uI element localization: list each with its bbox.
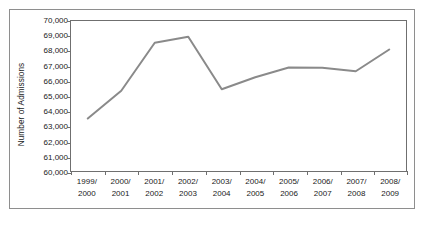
y-axis-tick-labels: 60,00061,00062,00063,00064,00065,00066,0… (30, 20, 68, 172)
x-axis-tick-label: 2005/2006 (279, 176, 299, 199)
y-axis-tick-label: 63,000 (30, 122, 68, 131)
x-axis-tick-mark (206, 171, 207, 175)
y-axis-tick-label: 68,000 (30, 46, 68, 55)
y-axis-tick-label: 60,000 (30, 168, 68, 177)
x-tick-line-2: 2000 (77, 188, 97, 200)
x-axis-tick-mark (105, 171, 106, 175)
line-series-svg (71, 21, 406, 171)
x-tick-line-2: 2006 (279, 188, 299, 200)
x-axis-tick-label: 2002/2003 (178, 176, 198, 199)
x-axis-tick-mark (138, 171, 139, 175)
x-axis-tick-mark (240, 171, 241, 175)
x-tick-line-2: 2008 (346, 188, 366, 200)
x-tick-line-1: 2001/ (144, 177, 164, 186)
y-axis-tick-label: 64,000 (30, 107, 68, 116)
x-axis-tick-label: 2007/2008 (346, 176, 366, 199)
y-axis-tick-mark (67, 158, 71, 159)
x-axis-tick-mark (71, 171, 72, 175)
y-axis-tick-label: 69,000 (30, 31, 68, 40)
x-tick-line-1: 2007/ (346, 177, 366, 186)
x-tick-line-2: 2003 (178, 188, 198, 200)
x-axis-tick-label: 2004/2005 (245, 176, 265, 199)
y-axis-tick-mark (67, 127, 71, 128)
y-axis-tick-mark (67, 97, 71, 98)
y-axis-tick-label: 67,000 (30, 61, 68, 70)
x-tick-line-2: 2007 (313, 188, 333, 200)
x-tick-line-2: 2005 (245, 188, 265, 200)
x-tick-line-1: 2004/ (245, 177, 265, 186)
chart-figure: Number of Admissions 60,00061,00062,0006… (0, 0, 426, 229)
y-axis-tick-label: 70,000 (30, 16, 68, 25)
x-axis-tick-labels: 1999/20002000/20012001/20022002/20032003… (70, 176, 407, 210)
x-tick-line-2: 2001 (111, 188, 131, 200)
x-axis-tick-label: 2003/2004 (212, 176, 232, 199)
admissions-line (88, 37, 390, 119)
x-axis-tick-mark (307, 171, 308, 175)
x-axis-tick-label: 2000/2001 (111, 176, 131, 199)
x-tick-line-1: 2006/ (313, 177, 333, 186)
x-tick-line-1: 1999/ (77, 177, 97, 186)
x-tick-line-1: 2002/ (178, 177, 198, 186)
y-axis-tick-mark (67, 21, 71, 22)
y-axis-title: Number of Admissions (13, 38, 31, 170)
x-tick-line-1: 2000/ (111, 177, 131, 186)
x-axis-tick-mark (407, 171, 408, 175)
y-axis-tick-label: 61,000 (30, 152, 68, 161)
x-axis-tick-mark (273, 171, 274, 175)
y-axis-tick-label: 66,000 (30, 76, 68, 85)
y-axis-title-text: Number of Admissions (18, 62, 27, 146)
x-axis-tick-label: 2006/2007 (313, 176, 333, 199)
x-tick-line-2: 2004 (212, 188, 232, 200)
x-tick-line-1: 2008/ (380, 177, 400, 186)
x-tick-line-1: 2003/ (212, 177, 232, 186)
y-axis-tick-mark (67, 112, 71, 113)
x-tick-line-2: 2009 (380, 188, 400, 200)
x-tick-line-2: 2002 (144, 188, 164, 200)
x-axis-tick-label: 2001/2002 (144, 176, 164, 199)
y-axis-tick-label: 65,000 (30, 92, 68, 101)
y-axis-tick-mark (67, 67, 71, 68)
x-axis-tick-mark (172, 171, 173, 175)
plot-area (70, 20, 407, 172)
y-axis-tick-mark (67, 82, 71, 83)
x-axis-tick-mark (341, 171, 342, 175)
x-axis-tick-label: 1999/2000 (77, 176, 97, 199)
y-axis-tick-mark (67, 36, 71, 37)
y-axis-tick-mark (67, 51, 71, 52)
y-axis-tick-mark (67, 143, 71, 144)
y-axis-tick-label: 62,000 (30, 137, 68, 146)
x-axis-tick-label: 2008/2009 (380, 176, 400, 199)
x-axis-tick-mark (374, 171, 375, 175)
x-tick-line-1: 2005/ (279, 177, 299, 186)
